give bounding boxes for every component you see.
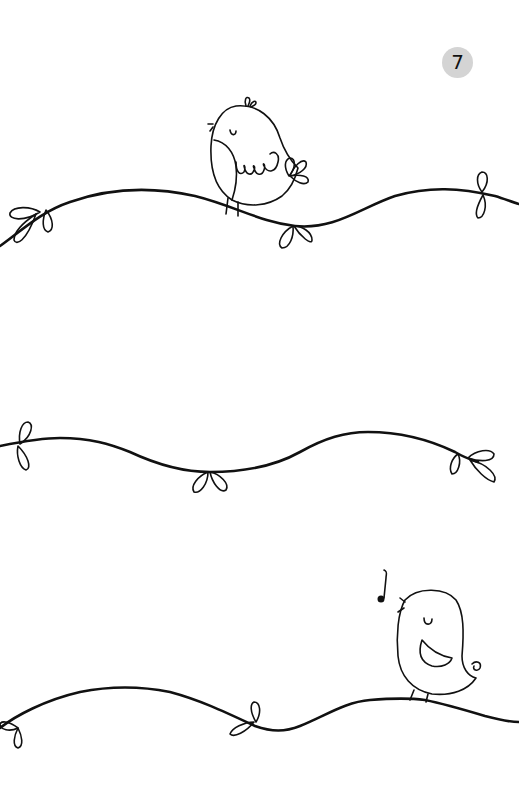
bird-singing — [378, 570, 481, 702]
vine-middle — [0, 422, 495, 492]
eye-closed — [424, 618, 432, 624]
eye-closed — [230, 130, 236, 135]
beak — [208, 124, 213, 131]
leaf-cluster — [17, 422, 31, 470]
leaf-cluster — [193, 472, 227, 492]
vine-middle-stem — [0, 432, 478, 472]
open-mouth — [420, 640, 452, 667]
bird-body — [211, 106, 298, 205]
bird-body — [397, 590, 476, 694]
beak — [398, 598, 405, 612]
vine-bottom — [0, 688, 519, 749]
vine-top — [0, 172, 519, 248]
music-note-icon — [378, 570, 387, 603]
coloring-page: 7 — [0, 0, 519, 792]
vine-top-stem — [0, 189, 519, 246]
leaf-cluster — [280, 226, 312, 248]
bird-sleeping — [208, 97, 308, 216]
leaf-cluster — [450, 451, 494, 482]
leaf-cluster — [230, 702, 260, 735]
illustration-canvas — [0, 0, 519, 792]
